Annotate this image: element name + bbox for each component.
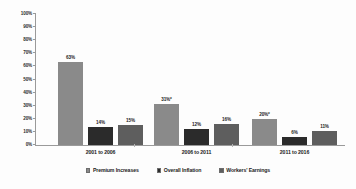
bar[interactable]	[184, 129, 209, 145]
legend-item-1[interactable]: Premium Increases	[86, 168, 139, 173]
legend-swatch-icon	[157, 168, 162, 173]
bar-wrap: 63%	[58, 14, 83, 145]
bar-value-label: 15%	[126, 119, 135, 124]
bar-wrap: 14%	[88, 14, 113, 145]
legend-label: Overall Inflation	[164, 168, 202, 173]
bar[interactable]	[252, 119, 277, 145]
bar-value-label: 31%*	[161, 98, 172, 103]
bar-wrap: 6%	[282, 14, 307, 145]
bar-group-1: 63%14%15%	[58, 14, 143, 145]
x-axis-label-3: 2011 to 2016	[252, 150, 337, 155]
bar[interactable]	[58, 62, 83, 145]
y-axis-tick-mark	[33, 52, 36, 53]
y-axis-tick-mark	[33, 26, 36, 27]
plot-area: 100%90%80%70%60%50%40%30%20%10%0% 63%14%…	[36, 14, 342, 145]
bar-value-label: 6%	[291, 131, 297, 136]
x-axis-line	[35, 145, 345, 146]
bar[interactable]	[312, 131, 337, 145]
bar-value-label: 63%	[66, 56, 75, 61]
bar-wrap: 12%	[184, 14, 209, 145]
x-axis-label-1: 2001 to 2006	[58, 150, 143, 155]
y-axis-tick-mark	[33, 131, 36, 132]
bar-wrap: 31%*	[154, 14, 179, 145]
y-axis-tick-mark	[33, 79, 36, 80]
bar-value-label: 20%*	[259, 113, 270, 118]
bar-group-3: 20%*6%11%	[252, 14, 337, 145]
bars: 20%*6%11%	[252, 14, 337, 145]
bar-wrap: 20%*	[252, 14, 277, 145]
chart-legend: Premium IncreasesOverall InflationWorker…	[0, 168, 356, 173]
bar-wrap: 15%	[118, 14, 143, 145]
legend-label: Premium Increases	[93, 168, 139, 173]
bars: 63%14%15%	[58, 14, 143, 145]
legend-item-3[interactable]: Workers' Earnings	[219, 168, 270, 173]
bar-group-2: 31%*12%16%	[154, 14, 239, 145]
legend-item-2[interactable]: Overall Inflation	[157, 168, 202, 173]
bar-value-label: 12%	[192, 123, 201, 128]
y-axis-tick-mark	[33, 92, 36, 93]
bar-value-label: 14%	[96, 121, 105, 126]
bar[interactable]	[282, 137, 307, 145]
legend-swatch-icon	[86, 168, 91, 173]
bar-wrap: 16%	[214, 14, 239, 145]
bar-value-label: 16%	[222, 118, 231, 123]
legend-swatch-icon	[219, 168, 224, 173]
y-axis-tick-mark	[33, 39, 36, 40]
bar[interactable]	[118, 125, 143, 145]
y-axis-tick-mark	[33, 105, 36, 106]
y-axis-tick-mark	[33, 118, 36, 119]
bar-wrap: 11%	[312, 14, 337, 145]
bar-value-label: 11%	[320, 125, 329, 130]
y-axis-tick-mark	[33, 144, 36, 145]
bar[interactable]	[88, 127, 113, 145]
x-axis-label-2: 2006 to 2011	[154, 150, 239, 155]
bar[interactable]	[154, 104, 179, 145]
bars: 31%*12%16%	[154, 14, 239, 145]
bar[interactable]	[214, 124, 239, 145]
y-axis-tick-mark	[33, 65, 36, 66]
legend-label: Workers' Earnings	[226, 168, 270, 173]
bar-chart: 100%90%80%70%60%50%40%30%20%10%0% 63%14%…	[0, 0, 356, 189]
y-axis-tick-mark	[33, 13, 36, 14]
x-axis-separator	[134, 144, 135, 147]
x-axis-separator	[232, 144, 233, 147]
